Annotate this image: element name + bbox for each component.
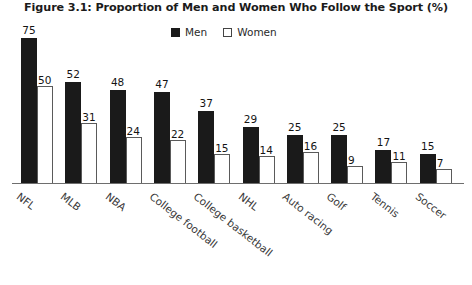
plot-area: 7550NFL5231MLB4824NBA4722College footbal… (0, 0, 472, 285)
bar-women-soccer (436, 169, 452, 183)
bar-men-auto-racing (287, 135, 303, 183)
bar-value-men-tennis: 17 (368, 136, 398, 148)
bar-women-college-football (170, 140, 186, 183)
bar-value-men-soccer: 15 (413, 140, 443, 152)
bar-value-women-mlb: 31 (82, 111, 95, 123)
bar-value-men-mlb: 52 (58, 68, 88, 80)
bar-women-auto-racing (303, 152, 319, 183)
bar-value-women-college-basketball: 15 (215, 142, 228, 154)
bar-men-tennis (375, 150, 391, 183)
bar-value-men-golf: 25 (324, 121, 354, 133)
bar-women-golf (347, 166, 363, 183)
bar-value-women-nhl: 14 (260, 144, 273, 156)
bar-men-nhl (243, 127, 259, 183)
bar-value-women-soccer: 7 (437, 157, 444, 169)
x-axis-label-tennis: Tennis (369, 190, 402, 220)
bar-women-nba (126, 137, 142, 183)
bar-women-mlb (81, 123, 97, 183)
x-axis-label-nba: NBA (103, 190, 128, 213)
bar-value-men-nhl: 29 (236, 113, 266, 125)
x-axis-label-nfl: NFL (15, 190, 38, 212)
bar-value-men-college-basketball: 37 (191, 97, 221, 109)
bar-men-mlb (65, 82, 81, 183)
bar-men-college-football (154, 92, 170, 183)
bar-value-women-golf: 9 (348, 154, 355, 166)
x-axis-label-golf: Golf (325, 190, 349, 213)
bar-value-women-nfl: 50 (38, 74, 51, 86)
bar-value-men-nfl: 75 (14, 24, 44, 36)
x-axis-label-soccer: Soccer (413, 190, 448, 221)
bar-men-nfl (21, 38, 37, 183)
bar-women-college-basketball (214, 154, 230, 183)
bar-women-nfl (37, 86, 53, 183)
x-axis-line (12, 183, 464, 184)
bar-value-women-college-football: 22 (171, 128, 184, 140)
bar-value-women-tennis: 11 (392, 150, 405, 162)
bar-value-men-college-football: 47 (147, 78, 177, 90)
x-axis-label-college-basketball: College basketball (192, 190, 275, 259)
figure-container: Figure 3.1: Proportion of Men and Women … (0, 0, 472, 285)
bar-men-golf (331, 135, 347, 183)
bar-women-tennis (391, 162, 407, 183)
bar-value-women-nba: 24 (127, 125, 140, 137)
bar-value-men-auto-racing: 25 (280, 121, 310, 133)
bar-value-women-auto-racing: 16 (304, 140, 317, 152)
bar-value-men-nba: 48 (103, 76, 133, 88)
bar-men-nba (110, 90, 126, 183)
bar-men-college-basketball (198, 111, 214, 183)
bar-men-soccer (420, 154, 436, 183)
x-axis-label-nhl: NHL (236, 190, 260, 213)
bar-women-nhl (259, 156, 275, 183)
x-axis-label-mlb: MLB (59, 190, 84, 213)
